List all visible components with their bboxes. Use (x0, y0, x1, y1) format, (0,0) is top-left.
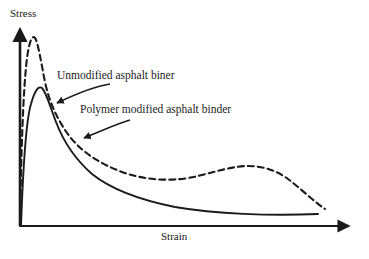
annotation-polymer-modified-asphalt-binder: Polymer modified asphalt binder (80, 104, 231, 116)
x-axis-title: Strain (161, 231, 187, 242)
stress-strain-plot (0, 0, 369, 259)
curve-polymer-modified-asphalt-binder (20, 37, 325, 226)
leader-arrow-polymer-icon (84, 120, 130, 138)
y-axis-title: Stress (10, 8, 36, 19)
annotation-unmodified-asphalt-binder: Unmodified asphalt biner (57, 70, 175, 82)
leader-arrow-unmodified-icon (57, 84, 110, 103)
stress-strain-figure: Stress Strain Unmodified asphalt biner P… (0, 0, 369, 259)
